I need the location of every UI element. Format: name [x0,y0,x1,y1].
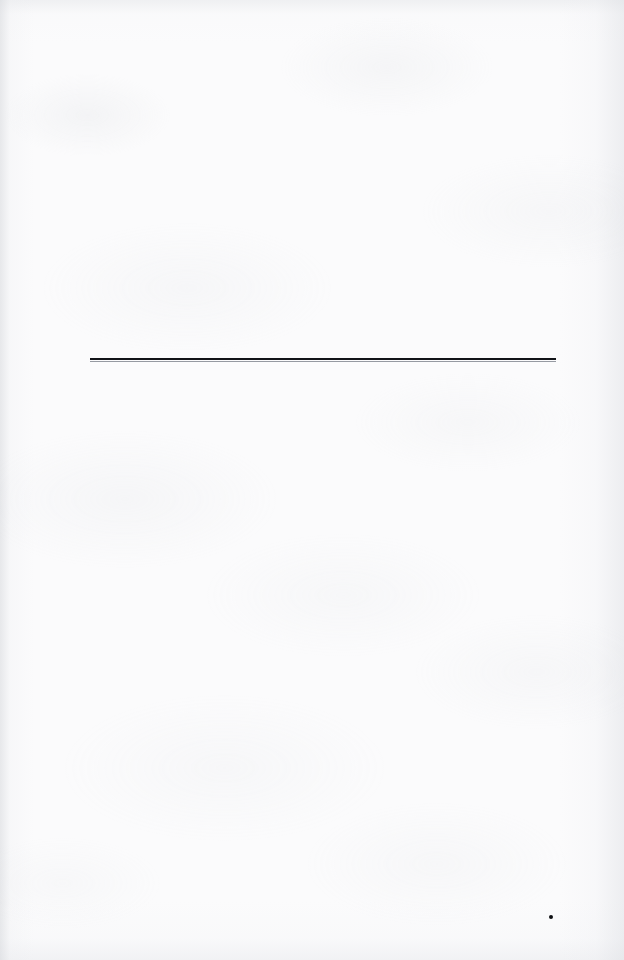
horizontal-rule [90,358,556,360]
ink-dot [549,915,553,919]
horizontal-rule-shadow [90,361,556,362]
paper-texture-overlay [0,0,624,960]
scanned-page [0,0,624,960]
